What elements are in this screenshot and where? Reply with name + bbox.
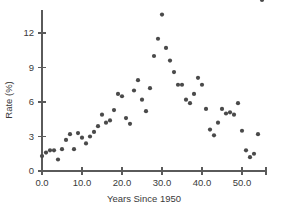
data-points bbox=[40, 0, 264, 162]
data-point bbox=[64, 138, 68, 142]
data-point bbox=[104, 121, 108, 125]
data-point bbox=[160, 13, 164, 17]
data-point bbox=[136, 78, 140, 82]
data-point bbox=[52, 148, 56, 152]
data-point bbox=[208, 128, 212, 132]
data-point bbox=[140, 98, 144, 102]
data-point bbox=[156, 37, 160, 41]
data-point bbox=[184, 98, 188, 102]
y-tick-label: 6 bbox=[29, 96, 34, 107]
data-point bbox=[112, 108, 116, 112]
x-tick-group: 0.010.020.030.040.050.0 bbox=[35, 167, 266, 188]
data-point bbox=[188, 101, 192, 105]
data-point bbox=[144, 109, 148, 113]
data-point bbox=[236, 101, 240, 105]
data-point bbox=[192, 92, 196, 96]
data-point bbox=[116, 92, 120, 96]
data-point bbox=[248, 155, 252, 159]
data-point bbox=[256, 132, 260, 136]
data-point bbox=[40, 154, 44, 158]
data-point bbox=[224, 111, 228, 115]
data-point bbox=[240, 129, 244, 133]
data-point bbox=[148, 86, 152, 90]
x-tick-label: 30.0 bbox=[153, 177, 172, 188]
data-point bbox=[124, 116, 128, 120]
data-point bbox=[92, 130, 96, 134]
scatter-chart: 036912 0.010.020.030.040.050.0 Years Sin… bbox=[0, 0, 288, 209]
data-point bbox=[232, 113, 236, 117]
x-tick-label: 40.0 bbox=[193, 177, 212, 188]
data-point bbox=[128, 122, 132, 126]
data-point bbox=[180, 83, 184, 87]
data-point bbox=[56, 157, 60, 161]
data-point bbox=[204, 107, 208, 111]
data-point bbox=[244, 148, 248, 152]
y-axis-title: Rate (%) bbox=[3, 81, 14, 118]
data-point bbox=[84, 141, 88, 145]
data-point bbox=[60, 147, 64, 151]
data-point bbox=[152, 54, 156, 58]
x-axis-title: Years Since 1950 bbox=[107, 193, 181, 204]
data-point bbox=[216, 121, 220, 125]
data-point bbox=[68, 132, 72, 136]
data-point bbox=[120, 94, 124, 98]
data-point bbox=[252, 152, 256, 156]
y-tick-label: 9 bbox=[29, 62, 34, 73]
x-tick-label: 50.0 bbox=[233, 177, 252, 188]
data-point bbox=[220, 107, 224, 111]
data-point bbox=[48, 148, 52, 152]
y-tick-label: 0 bbox=[29, 165, 34, 176]
data-point bbox=[176, 83, 180, 87]
data-point bbox=[164, 46, 168, 50]
data-point bbox=[132, 88, 136, 92]
data-point bbox=[72, 147, 76, 151]
data-point bbox=[88, 134, 92, 138]
data-point bbox=[196, 76, 200, 80]
data-point bbox=[44, 151, 48, 155]
x-tick-label: 10.0 bbox=[73, 177, 92, 188]
data-point bbox=[212, 133, 216, 137]
data-point bbox=[228, 110, 232, 114]
plot-canvas: 036912 0.010.020.030.040.050.0 Years Sin… bbox=[0, 0, 288, 209]
x-tick-label: 0.0 bbox=[35, 177, 48, 188]
data-point bbox=[108, 118, 112, 122]
y-tick-label: 3 bbox=[29, 131, 34, 142]
data-point bbox=[96, 124, 100, 128]
data-point bbox=[200, 83, 204, 87]
y-axis: 036912 bbox=[23, 10, 46, 176]
data-point bbox=[260, 0, 264, 2]
data-point bbox=[172, 70, 176, 74]
y-tick-label: 12 bbox=[23, 27, 34, 38]
data-point bbox=[168, 59, 172, 63]
data-point bbox=[76, 131, 80, 135]
x-axis: 0.010.020.030.040.050.0 bbox=[35, 167, 266, 188]
data-point bbox=[80, 136, 84, 140]
data-point bbox=[100, 113, 104, 117]
x-tick-label: 20.0 bbox=[113, 177, 132, 188]
